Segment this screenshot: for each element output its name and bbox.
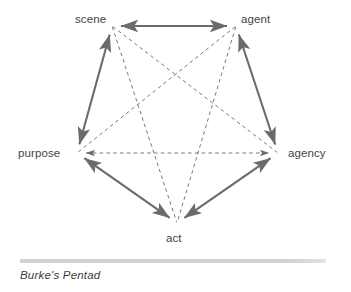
figure-caption: Burke's Pentad [20,269,100,281]
pentad-graph [0,0,351,292]
burkes-pentad-figure: scene agent agency act purpose Burke's P… [0,0,351,292]
node-label-agent: agent [241,13,270,25]
edge-purpose-scene [79,35,109,145]
edge-agent-agency [239,35,275,145]
node-label-scene: scene [75,13,106,25]
edge-agency-act [184,158,270,218]
edge-act-purpose [84,158,169,218]
node-label-agency: agency [288,147,326,159]
edge-scene-act [112,27,176,222]
edge-agent-act [177,27,235,222]
solid-edge-group [79,26,275,218]
edge-scene-agency [113,27,277,153]
node-label-act: act [166,232,182,244]
edge-agent-purpose [78,27,235,153]
caption-divider [20,259,326,263]
node-label-purpose: purpose [18,147,60,159]
dashed-edge-group [78,27,277,222]
